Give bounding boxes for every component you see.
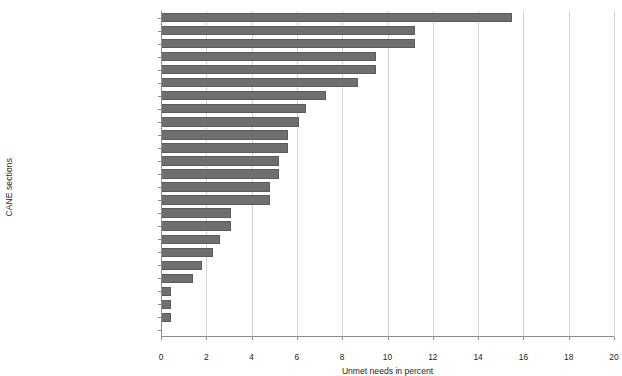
x-tick-label-2: 2 [204,352,209,362]
bar [161,104,306,113]
gridline-20 [614,11,615,337]
x-tick-label-0: 0 [159,352,164,362]
bar [161,39,415,48]
bar [161,221,231,230]
gridline-14 [478,11,479,337]
bar [161,52,376,61]
gridline-18 [569,11,570,337]
bar [161,156,279,165]
gridline-10 [388,11,389,337]
bar [161,182,270,191]
x-tick-14 [478,337,479,340]
bar [161,195,270,204]
gridline-16 [523,11,524,337]
bar [161,117,299,126]
bar [161,208,231,217]
x-tick-label-18: 18 [564,352,573,362]
bar [161,13,512,22]
x-tick-2 [206,337,207,340]
bar [161,287,171,296]
x-tick-6 [297,337,298,340]
x-axis-title: Unmet needs in percent [161,366,614,376]
x-tick-label-12: 12 [428,352,437,362]
x-tick-12 [433,337,434,340]
x-tick-label-4: 4 [249,352,254,362]
x-tick-18 [569,337,570,340]
bar [161,261,202,270]
bar [161,130,288,139]
bar [161,248,213,257]
bar [161,91,326,100]
bar [161,235,220,244]
bar [161,313,171,322]
bar [161,300,171,309]
plot-area: Physical healthInformationMobilityEyesig… [161,11,614,337]
x-tick-label-16: 16 [519,352,528,362]
y-axis-title: CANE sections [2,0,16,374]
y-axis-line [161,11,162,337]
bar [161,274,193,283]
x-tick-8 [342,337,343,340]
x-tick-0 [161,337,162,340]
x-tick-label-10: 10 [383,352,392,362]
x-tick-label-6: 6 [295,352,300,362]
bar [161,169,279,178]
y-axis-title-text: CANE sections [4,158,14,216]
x-tick-20 [614,337,615,340]
x-axis-line [161,336,614,337]
gridline-12 [433,11,434,337]
x-tick-4 [252,337,253,340]
bar [161,65,376,74]
bar [161,26,415,35]
x-tick-16 [523,337,524,340]
bar [161,78,358,87]
x-tick-10 [388,337,389,340]
x-tick-label-14: 14 [473,352,482,362]
x-tick-label-20: 20 [609,352,618,362]
bar [161,143,288,152]
x-tick-label-8: 8 [340,352,345,362]
